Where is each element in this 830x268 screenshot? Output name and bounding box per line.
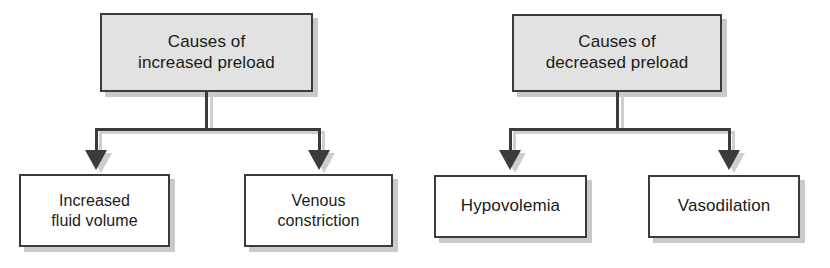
arrowhead-left-2 (308, 150, 330, 170)
node-vasodilation[interactable]: Vasodilation (648, 175, 800, 238)
arrowhead-left-1 (85, 150, 107, 170)
node-venous-constriction[interactable]: Venous constriction (244, 174, 393, 247)
node-increased-fluid-volume[interactable]: Increased fluid volume (19, 174, 170, 247)
branch-bar-shadow-right (513, 131, 735, 134)
node-label: Causes of decreased preload (546, 32, 689, 73)
diagram-canvas: Causes of increased preload Increased fl… (0, 0, 830, 268)
arrowhead-right-2 (718, 150, 740, 170)
node-label: Causes of increased preload (138, 32, 275, 73)
node-label: Increased fluid volume (51, 191, 138, 230)
stem-shadow-left (210, 95, 213, 130)
branch-bar-right (509, 128, 731, 131)
stem-right (616, 92, 619, 129)
stem-left (205, 92, 208, 129)
node-label: Hypovolemia (461, 196, 560, 217)
stem-shadow-right (621, 95, 624, 130)
arrowhead-right-1 (499, 150, 521, 170)
node-causes-decreased-preload[interactable]: Causes of decreased preload (512, 14, 722, 92)
branch-bar-left (95, 128, 321, 131)
node-hypovolemia[interactable]: Hypovolemia (434, 175, 587, 238)
node-label: Vasodilation (678, 196, 771, 217)
branch-bar-shadow-left (99, 131, 325, 134)
node-causes-increased-preload[interactable]: Causes of increased preload (100, 13, 313, 92)
node-label: Venous constriction (277, 191, 359, 230)
